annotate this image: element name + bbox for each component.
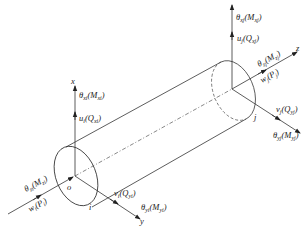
v-j-label: vj(Qyj) <box>276 104 298 115</box>
theta-x-j-label: θxj(Mxj) <box>236 12 262 23</box>
theta-x-i-label: θxi(Mxi) <box>79 90 105 101</box>
u-i-label: ui(Qxi) <box>79 113 101 124</box>
end-circle-j-hidden <box>212 62 246 120</box>
node-i-label: i <box>89 202 92 212</box>
w-i-label: wi(Pi) <box>26 196 49 215</box>
node-i-axes <box>8 86 140 219</box>
w-j-label: wj(Pj) <box>258 67 281 86</box>
end-circle-j-front <box>221 61 255 119</box>
theta-y-j-label: θyj(Myj) <box>273 130 299 141</box>
y-axis-label: y <box>139 216 144 226</box>
v-i-arrow <box>110 199 118 204</box>
node-j-label: j <box>253 112 257 122</box>
v-j-arrow <box>272 115 280 120</box>
cylinder <box>46 61 256 213</box>
pipe-element-diagram: x θxi(Mxi) ui(Qxi) o i θzi(Mzi) wi(Pi) v… <box>0 0 307 230</box>
node-i-labels: x θxi(Mxi) ui(Qxi) o i θzi(Mzi) wi(Pi) v… <box>22 76 167 226</box>
theta-z-j-label: θzj(Mzj) <box>255 48 282 70</box>
u-j-label: uj(Qxj) <box>237 33 259 44</box>
end-circle-i <box>46 140 106 212</box>
z-axis-label: z <box>295 43 300 53</box>
v-i-label: vi(Qyi) <box>114 188 136 199</box>
centerline <box>75 89 232 176</box>
theta-z-i-label: θzi(Mzi) <box>22 173 49 195</box>
theta-y-i-label: θyi(Myi) <box>141 202 167 213</box>
x-axis-label: x <box>70 76 75 86</box>
node-j-labels: θxj(Mxj) uj(Qxj) z θzj(Mzj) wj(Pj) vj(Qy… <box>236 12 300 141</box>
origin-label: o <box>67 182 71 192</box>
